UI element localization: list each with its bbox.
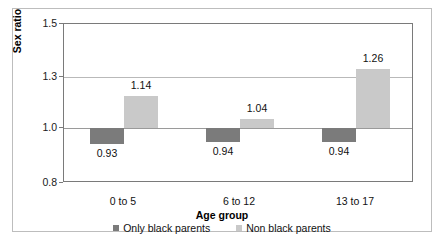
- y-tick-label-1-5: 1.5: [27, 18, 57, 29]
- x-tick-label-13-to-17: 13 to 17: [325, 195, 385, 207]
- legend-swatch-icon-non-black-parents: [236, 225, 242, 231]
- data-label-non-black-parents-0-to-5: 1.14: [111, 80, 171, 91]
- y-tick-label-1-0: 1.0: [27, 122, 57, 133]
- bar-only-black-parents-6-to-12[interactable]: [206, 128, 240, 142]
- legend-label-only-black-parents: Only black parents: [123, 222, 210, 234]
- bar-non-black-parents-6-to-12[interactable]: [240, 119, 274, 128]
- y-axis-title: Sex ratio: [11, 0, 23, 71]
- data-label-non-black-parents-13-to-17: 1.26: [343, 53, 403, 64]
- bar-non-black-parents-13-to-17[interactable]: [356, 69, 390, 128]
- data-label-only-black-parents-6-to-12: 0.94: [193, 146, 253, 157]
- legend-item-non-black-parents[interactable]: Non black parents: [236, 222, 331, 234]
- x-axis-title: Age group: [13, 209, 431, 221]
- bar-only-black-parents-13-to-17[interactable]: [322, 128, 356, 142]
- legend: Only black parents Non black parents: [13, 222, 431, 234]
- x-tick-label-0-to-5: 0 to 5: [93, 195, 153, 207]
- legend-item-only-black-parents[interactable]: Only black parents: [113, 222, 210, 234]
- plot-area: 0.93 1.14 0.94 1.04 0.94 1.26: [63, 23, 413, 182]
- bar-only-black-parents-0-to-5[interactable]: [90, 128, 124, 144]
- y-tick-label-0-8: 0.8: [27, 177, 57, 188]
- legend-label-non-black-parents: Non black parents: [246, 222, 331, 234]
- x-tick-label-6-to-12: 6 to 12: [209, 195, 269, 207]
- legend-swatch-icon-only-black-parents: [113, 225, 119, 231]
- data-label-only-black-parents-13-to-17: 0.94: [309, 146, 369, 157]
- bar-non-black-parents-0-to-5[interactable]: [124, 96, 158, 128]
- y-tick-mark-0-8: [59, 182, 63, 183]
- y-tick-label-1-3: 1.3: [27, 71, 57, 82]
- data-label-only-black-parents-0-to-5: 0.93: [77, 148, 137, 159]
- data-label-non-black-parents-6-to-12: 1.04: [227, 103, 287, 114]
- chart-frame: Sex ratio 1.5 1.3 1.0 0.8 0.93 1.14 0.94…: [12, 8, 432, 232]
